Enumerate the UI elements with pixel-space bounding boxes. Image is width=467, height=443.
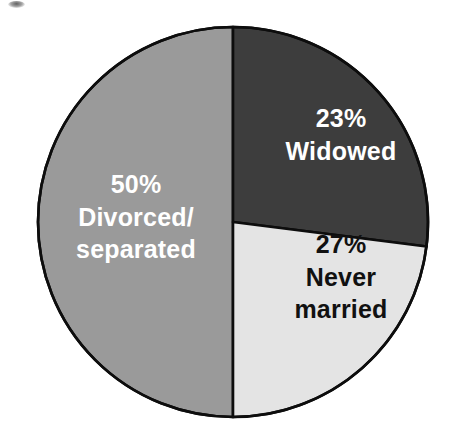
pie-slice-widowed[interactable]	[233, 27, 428, 247]
pie-chart-graphic	[0, 0, 467, 443]
pie-slice-divorced-separated[interactable]	[38, 27, 233, 417]
pie-slice-never-married[interactable]	[233, 222, 427, 417]
pie-chart: 50% Divorced/ separated 23% Widowed 27% …	[0, 0, 467, 443]
